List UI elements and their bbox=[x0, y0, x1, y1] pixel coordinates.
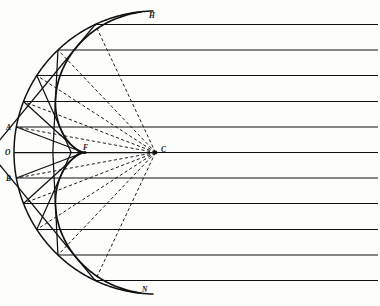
caustic-branch-up bbox=[55, 12, 140, 152]
caustic-branch-down bbox=[55, 153, 140, 293]
label-b: B bbox=[5, 174, 11, 183]
optics-caustic-figure: HAOFCBN bbox=[0, 0, 380, 306]
point-marker-c bbox=[154, 151, 158, 155]
label-h: H bbox=[148, 11, 156, 20]
label-n: N bbox=[141, 285, 148, 294]
reflected-ray-0 bbox=[0, 153, 95, 281]
label-o: O bbox=[5, 148, 11, 157]
reflected-ray-4 bbox=[16, 153, 83, 179]
reflected-ray-6 bbox=[16, 127, 83, 153]
label-f: F bbox=[83, 143, 88, 152]
label-a: A bbox=[5, 123, 11, 132]
diagram-canvas: HAOFCBN bbox=[0, 0, 380, 306]
reflected-ray-10 bbox=[0, 25, 95, 153]
reflected-rays-layer bbox=[0, 25, 155, 281]
